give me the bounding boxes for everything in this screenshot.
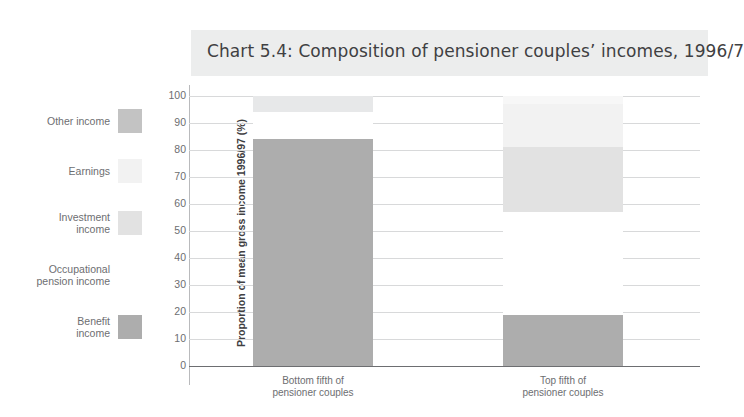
- bar-segment-other-income-top-fifth: [503, 96, 623, 104]
- legend-item-occupational-pension-income: Occupational pension income: [6, 260, 142, 290]
- bar-segment-occupational-pension-income-top-fifth: [503, 212, 623, 315]
- bar-segment-other-income-bottom-fifth: [253, 96, 373, 112]
- y-tick: 30: [146, 278, 186, 290]
- legend-swatch-occupational-pension-income: [118, 263, 142, 287]
- plot-area: [189, 96, 700, 366]
- legend-item-benefit-income: Benefit income: [6, 312, 142, 342]
- legend-item-investment-income: Investment income: [6, 208, 142, 238]
- bar-segment-occupational-pension-income-bottom-fifth: [253, 112, 373, 139]
- y-tick: 80: [146, 143, 186, 155]
- legend-swatch-benefit-income: [118, 315, 142, 339]
- legend-item-other-income: Other income: [6, 108, 142, 134]
- legend-label: Other income: [47, 115, 118, 127]
- y-tick: 50: [146, 224, 186, 236]
- legend-label: Investment income: [59, 211, 118, 235]
- y-tick: 10: [146, 332, 186, 344]
- y-axis-tick-labels: 100 90 80 70 60 50 40 30 20 10 0: [160, 96, 186, 366]
- legend-label: Earnings: [69, 165, 118, 177]
- bar-segment-earnings-top-fifth: [503, 104, 623, 147]
- y-tick: 70: [146, 170, 186, 182]
- y-tick: 0: [146, 359, 186, 371]
- legend-item-earnings: Earnings: [6, 158, 142, 184]
- y-tick: 40: [146, 251, 186, 263]
- y-tick: 20: [146, 305, 186, 317]
- x-axis-category-bottom-fifth: Bottom fifth of pensioner couples: [213, 375, 413, 399]
- chart-title-band: Chart 5.4: Composition of pensioner coup…: [191, 30, 708, 76]
- x-axis-category-top-fifth: Top fifth of pensioner couples: [463, 375, 663, 399]
- y-tick: 60: [146, 197, 186, 209]
- bar-segment-benefit-income-bottom-fifth: [253, 139, 373, 366]
- legend-swatch-investment-income: [118, 211, 142, 235]
- bar-segment-investment-income-top-fifth: [503, 147, 623, 212]
- y-tick: 100: [146, 89, 186, 101]
- legend-swatch-other-income: [118, 109, 142, 133]
- legend-label: Occupational pension income: [36, 263, 118, 287]
- y-tick: 90: [146, 116, 186, 128]
- page-title: Chart 5.4: Composition of pensioner coup…: [207, 41, 744, 61]
- x-axis-line: [189, 366, 700, 367]
- legend-label: Benefit income: [76, 315, 118, 339]
- bar-segment-benefit-income-top-fifth: [503, 315, 623, 366]
- legend-swatch-earnings: [118, 159, 142, 183]
